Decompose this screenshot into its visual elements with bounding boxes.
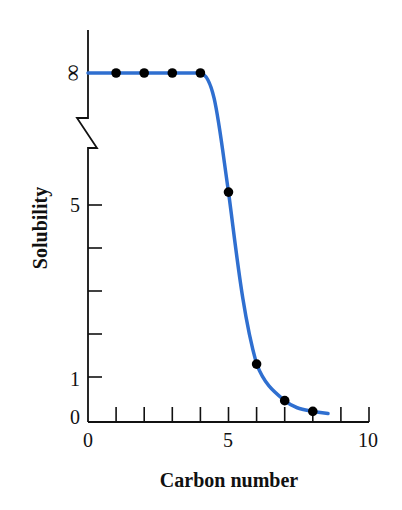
y-tick-label-5: 5 [70,194,80,216]
x-axis-title: Carbon number [160,469,298,491]
x-tick-label-0: 0 [83,429,93,451]
y-tick-label-0: 0 [70,406,80,428]
data-point [224,187,234,197]
y-tick-label-1: 1 [70,368,80,390]
x-tick-label-5: 5 [223,429,233,451]
y-axis-title: Solubility [29,187,52,269]
solubility-chart: 0 5 10 0 1 5 ∞ Carbon number Solubility [0,0,402,510]
data-point [168,68,178,78]
data-point [308,407,318,417]
data-point [139,68,149,78]
data-point [111,68,121,78]
solubility-curve [88,73,328,413]
data-points [111,68,317,416]
data-point [196,68,206,78]
y-tick-label-infinity: ∞ [59,64,85,81]
data-point [252,359,262,369]
x-tick-label-10: 10 [358,429,378,451]
y-axis-ticks [88,205,102,377]
data-point [280,396,290,406]
y-axis [77,30,97,422]
